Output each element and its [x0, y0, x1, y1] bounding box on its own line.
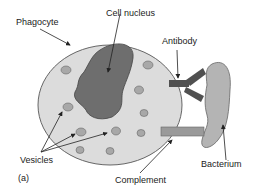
- bacterium: [202, 62, 231, 147]
- phagocyte-label: Phagocyte: [16, 18, 59, 27]
- vesicles-label: Vesicles: [20, 156, 53, 165]
- antibody-arrow: [177, 50, 178, 78]
- complement: [161, 127, 204, 136]
- panel-label: (a): [18, 174, 29, 183]
- bacterium-label: Bacterium: [201, 160, 242, 169]
- antibody-label: Antibody: [162, 37, 197, 46]
- phagocyte-arrow: [40, 29, 70, 45]
- complement-label: Complement: [115, 176, 166, 185]
- bacterium-arrow: [223, 125, 226, 160]
- cell-nucleus-label: Cell nucleus: [106, 9, 155, 18]
